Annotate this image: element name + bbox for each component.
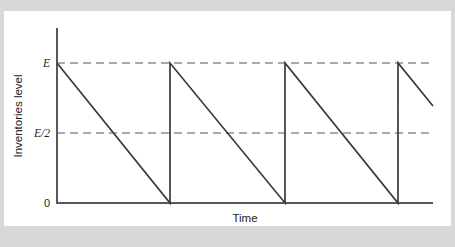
inventory-sawtooth-chart: E E/2 0 Inventories level Time — [0, 0, 455, 247]
figure-card: E E/2 0 Inventories level Time — [0, 0, 455, 247]
y-tick-label-E-half: E/2 — [33, 127, 50, 139]
y-axis-title: Inventories level — [12, 74, 24, 157]
x-axis-title: Time — [232, 212, 257, 224]
y-tick-label-E: E — [42, 57, 50, 69]
y-tick-label-zero: 0 — [44, 197, 50, 209]
